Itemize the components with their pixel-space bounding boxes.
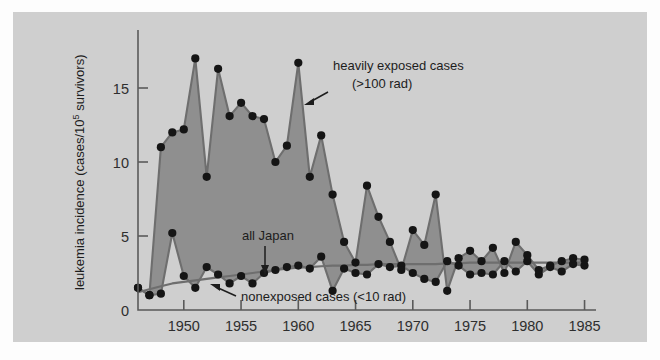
nonexposed-annotation: nonexposed cases (<10 rad) <box>210 284 406 304</box>
data-point <box>523 251 531 259</box>
nonexposed-annotation-line1: nonexposed cases (<10 rad) <box>241 289 406 304</box>
data-point <box>386 263 394 271</box>
y-axis-title-after: survivors) <box>72 54 87 114</box>
data-point <box>558 257 566 265</box>
data-point <box>180 125 188 133</box>
data-point <box>409 226 417 234</box>
data-point <box>306 173 314 181</box>
data-point <box>374 260 382 268</box>
data-point <box>489 270 497 278</box>
y-tick-label: 10 <box>113 155 129 171</box>
data-point <box>363 182 371 190</box>
data-point <box>294 59 302 67</box>
x-tick-label: 1985 <box>568 318 600 334</box>
data-point <box>226 279 234 287</box>
data-point <box>168 229 176 237</box>
data-point <box>420 275 428 283</box>
data-point <box>294 262 302 270</box>
data-point <box>203 173 211 181</box>
heavily-exposed-annotation: heavily exposed cases (>100 rad) <box>304 58 464 105</box>
data-point <box>351 259 359 267</box>
data-point <box>271 158 279 166</box>
all-japan-annotation-line1: all Japan <box>242 228 294 243</box>
x-tick-label: 1980 <box>511 318 543 334</box>
data-point <box>443 287 451 295</box>
data-point <box>455 254 463 262</box>
data-point <box>203 263 211 271</box>
data-point <box>306 265 314 273</box>
data-point <box>477 257 485 265</box>
data-point <box>512 238 520 246</box>
data-point <box>512 267 520 275</box>
y-axis-title-before: leukemia incidence (cases/10 <box>72 119 87 290</box>
x-tick-label: 1955 <box>225 318 257 334</box>
data-point <box>248 112 256 120</box>
data-point <box>157 143 165 151</box>
data-point <box>180 272 188 280</box>
data-point <box>397 266 405 274</box>
data-point <box>466 247 474 255</box>
data-point <box>340 238 348 246</box>
data-point <box>351 269 359 277</box>
data-point <box>283 142 291 150</box>
heavily-exposed-annotation-line2: (>100 rad) <box>352 76 412 91</box>
data-point <box>226 112 234 120</box>
data-point <box>329 191 337 199</box>
y-tick-label: 5 <box>121 229 129 245</box>
data-point <box>409 269 417 277</box>
chart-svg: 051015 19501955196019651970197519801985 … <box>0 0 660 360</box>
data-point <box>237 272 245 280</box>
x-tick-label: 1975 <box>454 318 486 334</box>
svg-text:leukemia incidence (cases/105: leukemia incidence (cases/105 survivors) <box>71 54 87 290</box>
x-tick-label: 1970 <box>397 318 429 334</box>
figure-container: 051015 19501955196019651970197519801985 … <box>0 0 660 360</box>
figure-caption <box>13 350 573 360</box>
data-point <box>168 128 176 136</box>
data-point <box>237 99 245 107</box>
data-point <box>569 254 577 262</box>
y-axis-tick-labels: 051015 <box>113 81 129 319</box>
data-point <box>558 267 566 275</box>
data-point <box>157 290 165 298</box>
data-point <box>500 257 508 265</box>
data-point <box>374 213 382 221</box>
data-point <box>489 244 497 252</box>
data-point <box>386 238 394 246</box>
data-point <box>283 263 291 271</box>
data-point <box>191 284 199 292</box>
y-tick-label: 15 <box>113 81 129 97</box>
data-point <box>214 270 222 278</box>
data-point <box>546 262 554 270</box>
data-point <box>477 269 485 277</box>
data-point <box>455 262 463 270</box>
data-point <box>271 266 279 274</box>
data-point <box>317 131 325 139</box>
data-point <box>432 191 440 199</box>
y-axis-title: leukemia incidence (cases/105 survivors) <box>71 54 87 290</box>
heavily-exposed-annotation-line1: heavily exposed cases <box>333 58 464 73</box>
heavily-exposed-arrow-icon <box>304 92 328 105</box>
data-point <box>420 241 428 249</box>
data-point <box>191 54 199 62</box>
data-point <box>443 257 451 265</box>
y-tick-label: 0 <box>121 303 129 319</box>
data-point <box>500 269 508 277</box>
y-axis-ticks <box>138 88 148 236</box>
data-point <box>363 270 371 278</box>
x-tick-label: 1950 <box>168 318 200 334</box>
data-point <box>535 266 543 274</box>
data-point <box>260 115 268 123</box>
data-point <box>580 256 588 264</box>
data-point <box>214 65 222 73</box>
data-point <box>248 279 256 287</box>
x-axis-tick-labels: 19501955196019651970197519801985 <box>168 318 601 334</box>
data-point <box>432 278 440 286</box>
data-point <box>340 265 348 273</box>
data-point <box>466 270 474 278</box>
x-tick-label: 1965 <box>339 318 371 334</box>
x-tick-label: 1960 <box>282 318 314 334</box>
data-point <box>317 253 325 261</box>
data-point <box>145 291 153 299</box>
